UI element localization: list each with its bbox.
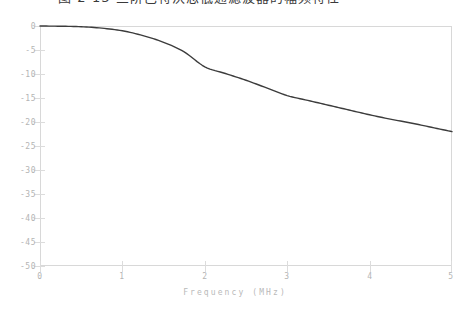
x-tick-label: 5	[448, 272, 453, 281]
x-tick-label: 0	[37, 272, 42, 281]
x-tick-label: 1	[119, 272, 124, 281]
y-tick-label: 0	[31, 22, 36, 31]
response-curve	[40, 26, 452, 266]
y-tick-label: -45	[20, 238, 36, 247]
x-tick-label: 4	[367, 272, 372, 281]
y-tick-label: -10	[20, 70, 36, 79]
y-tick-label: -25	[20, 142, 36, 151]
frequency-response-chart: 0 -5 -10 -15 -20 -25 -30 -35 -40 -45 -50…	[0, 0, 470, 309]
y-tick-label: -35	[20, 190, 36, 199]
x-tick-label: 2	[202, 272, 207, 281]
y-tick-label: -40	[20, 214, 36, 223]
y-tick-label: -15	[20, 94, 36, 103]
y-tick-label: -5	[25, 46, 36, 55]
response-curve-path	[40, 26, 452, 132]
x-tick-label: 3	[284, 272, 289, 281]
y-axis-tick-labels: 0 -5 -10 -15 -20 -25 -30 -35 -40 -45 -50	[0, 0, 36, 309]
x-axis-label: Frequency (MHz)	[0, 288, 470, 297]
y-tick-label: -50	[20, 262, 36, 271]
y-tick-label: -20	[20, 118, 36, 127]
y-tick-label: -30	[20, 166, 36, 175]
